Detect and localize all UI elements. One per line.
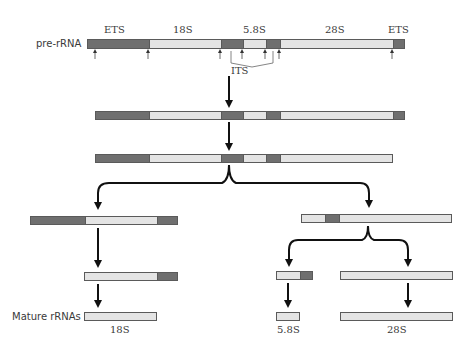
cleavage-site-arrows bbox=[95, 51, 392, 59]
its-bracket bbox=[231, 51, 273, 67]
rrna-processing-diagram: ETS 18S 5.8S 28S ETS ITS pre-rRNA Mature… bbox=[0, 0, 474, 355]
arrows-layer bbox=[0, 0, 474, 355]
